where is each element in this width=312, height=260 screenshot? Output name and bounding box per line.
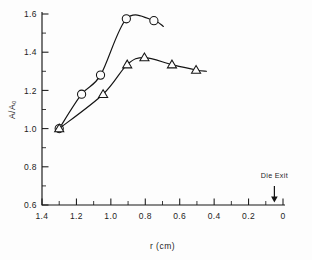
- x-tick-label: 1.2: [70, 211, 83, 221]
- x-tick-label: 1.4: [35, 211, 48, 221]
- x-axis-label: r (cm): [150, 241, 175, 251]
- y-tick-label: 0.6: [24, 200, 37, 210]
- data-point-triangles[interactable]: [140, 53, 149, 61]
- y-tick-label: 1.2: [24, 86, 37, 96]
- x-tick-label: 0.2: [242, 211, 255, 221]
- data-point-circles[interactable]: [150, 17, 158, 25]
- x-tick-label: 0.4: [208, 211, 221, 221]
- annotation-label: Die Exit: [261, 171, 288, 180]
- x-tick-label: 0.6: [173, 211, 186, 221]
- y-tick-label: 1.4: [24, 47, 37, 57]
- annotation-arrow-head: [271, 197, 278, 203]
- series-curve-circles: [59, 15, 163, 129]
- y-tick-label: 1.6: [24, 9, 37, 19]
- data-point-circles[interactable]: [77, 90, 85, 98]
- axis-spines: [42, 12, 285, 205]
- annotation-die-exit: Die Exit: [261, 171, 288, 202]
- y-axis-label: A/A₀: [7, 100, 17, 119]
- y-tick-label: 0.8: [24, 162, 37, 172]
- y-tick-label: 1.0: [24, 124, 37, 134]
- x-tick-label: 0.8: [139, 211, 152, 221]
- data-point-circles[interactable]: [122, 15, 130, 23]
- x-tick-label: 1.0: [104, 211, 117, 221]
- x-tick-label: 0: [280, 211, 285, 221]
- data-point-circles[interactable]: [96, 71, 104, 79]
- chart-svg: 1.41.21.00.80.60.40.200.60.81.01.21.41.6…: [0, 0, 312, 260]
- figure-container: 1.41.21.00.80.60.40.200.60.81.01.21.41.6…: [0, 0, 312, 260]
